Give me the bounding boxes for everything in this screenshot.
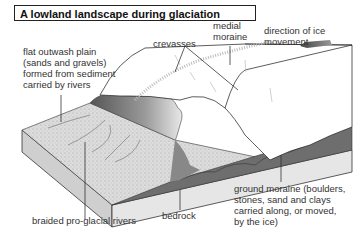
- label-ground-moraine: ground moraine (boulders, stones, sand a…: [234, 183, 345, 227]
- label-outwash-plain: flat outwash plain (sands and gravels) f…: [23, 46, 115, 90]
- label-medial-moraine: medial moraine: [213, 20, 247, 42]
- label-braided-rivers: braided pro-glacial rivers: [32, 215, 136, 226]
- label-bedrock: bedrock: [162, 210, 196, 221]
- label-ice-direction: direction of ice movement: [264, 25, 325, 47]
- label-crevasses: crevasses: [153, 38, 196, 49]
